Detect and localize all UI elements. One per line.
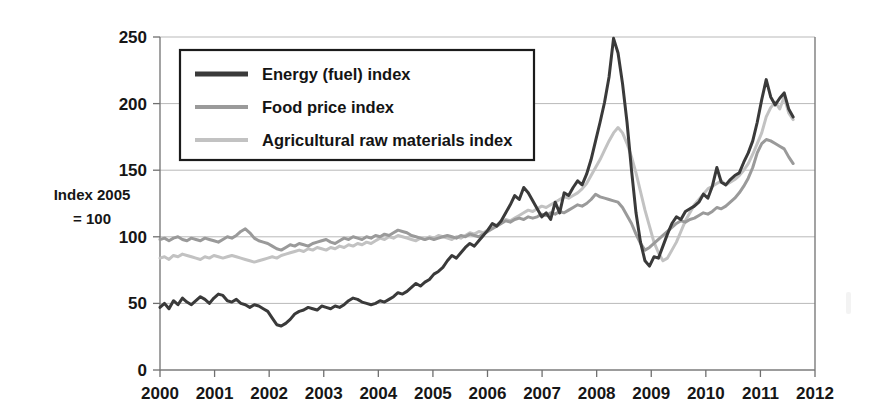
scan-artifacts bbox=[846, 292, 851, 314]
x-axis-ticks: 2000200120022003200420052006200720082009… bbox=[141, 370, 834, 403]
line-chart: 050100150200250 200020012002200320042005… bbox=[0, 0, 872, 419]
x-tick-label-2007: 2007 bbox=[523, 384, 561, 403]
y-tick-label-150: 150 bbox=[119, 161, 147, 180]
legend-label-2[interactable]: Agricultural raw materials index bbox=[262, 131, 513, 149]
x-tick-label-2002: 2002 bbox=[250, 384, 288, 403]
y-tick-label-100: 100 bbox=[119, 228, 147, 247]
x-tick-label-2012: 2012 bbox=[796, 384, 834, 403]
x-tick-label-2009: 2009 bbox=[632, 384, 670, 403]
x-tick-label-2001: 2001 bbox=[196, 384, 234, 403]
x-tick-label-2010: 2010 bbox=[687, 384, 725, 403]
chart-container: 050100150200250 200020012002200320042005… bbox=[0, 0, 872, 419]
x-tick-label-2011: 2011 bbox=[742, 384, 779, 403]
y-tick-label-200: 200 bbox=[119, 95, 147, 114]
y-tick-label-250: 250 bbox=[119, 28, 147, 47]
y-axis-label: Index 2005= 100 bbox=[54, 186, 131, 227]
y-axis-label-line1: Index 2005 bbox=[54, 186, 131, 203]
x-tick-label-2005: 2005 bbox=[414, 384, 452, 403]
y-tick-label-0: 0 bbox=[138, 361, 147, 380]
y-axis-label-line2: = 100 bbox=[73, 210, 111, 227]
legend-label-1[interactable]: Food price index bbox=[262, 98, 395, 116]
legend-label-0[interactable]: Energy (fuel) index bbox=[262, 65, 411, 83]
y-axis-ticks: 050100150200250 bbox=[119, 28, 160, 380]
x-tick-label-2004: 2004 bbox=[359, 384, 397, 403]
chart-legend[interactable]: Energy (fuel) indexFood price indexAgric… bbox=[180, 50, 534, 160]
x-tick-label-2000: 2000 bbox=[141, 384, 179, 403]
y-tick-label-50: 50 bbox=[128, 294, 147, 313]
x-tick-label-2006: 2006 bbox=[469, 384, 507, 403]
x-tick-label-2003: 2003 bbox=[305, 384, 343, 403]
x-tick-label-2008: 2008 bbox=[578, 384, 616, 403]
